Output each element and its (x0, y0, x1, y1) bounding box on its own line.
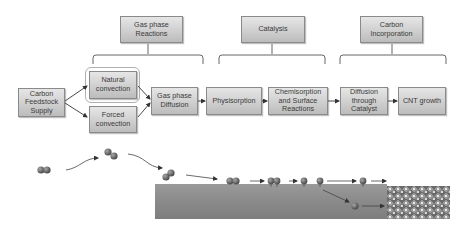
arrow-feedstock-to-forced (65, 103, 87, 117)
brace-gas-phase (93, 44, 203, 64)
brace-catalysis (219, 44, 325, 64)
molecules (37, 148, 366, 209)
brace-carbon-incorporation (340, 44, 446, 64)
arrow-feedstock-to-natural (65, 86, 87, 101)
diagram-connectors (0, 0, 464, 229)
arrow-forced-to-diffusion (138, 103, 150, 117)
arrow-natural-to-diffusion (138, 86, 150, 99)
